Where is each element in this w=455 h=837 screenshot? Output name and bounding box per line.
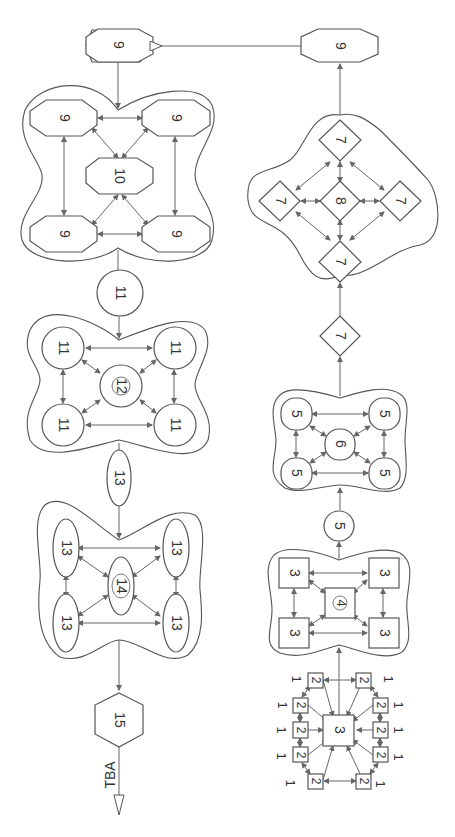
output-arrow-icon	[114, 795, 124, 815]
node-11: 11	[154, 404, 196, 446]
svg-text:13: 13	[59, 540, 75, 556]
input-1: 1	[289, 675, 304, 682]
node-9: 9	[30, 100, 97, 136]
svg-text:2: 2	[374, 702, 388, 709]
node-3-input-center: 3	[323, 715, 354, 746]
node-5: 5	[369, 398, 400, 430]
svg-text:5: 5	[332, 522, 348, 530]
node-2: 2	[293, 722, 308, 738]
node-3: 3	[279, 558, 309, 588]
node-12-center: 12	[100, 365, 142, 407]
node-9-right-top: 9	[301, 29, 378, 62]
input-1: 1	[275, 701, 290, 708]
node-7: 7	[380, 181, 421, 221]
svg-text:9: 9	[333, 42, 349, 50]
node-2: 2	[356, 774, 371, 789]
node-4-center: 4	[325, 588, 355, 618]
svg-text:2: 2	[294, 752, 308, 759]
svg-text:7: 7	[393, 197, 409, 205]
input-1: 1	[274, 726, 289, 733]
svg-text:5: 5	[377, 410, 393, 418]
input-1: 1	[391, 726, 406, 733]
svg-text:14: 14	[114, 578, 130, 594]
svg-text:3: 3	[287, 629, 303, 637]
node-13: 13	[53, 594, 79, 652]
node-13-link: 13	[107, 450, 131, 506]
svg-text:2: 2	[309, 677, 323, 684]
svg-text:2: 2	[374, 727, 388, 734]
svg-text:7: 7	[333, 258, 349, 266]
cluster-5-6: 5 5 5 5 6	[281, 398, 400, 489]
cluster-9-10: 9 9 9 9 10	[30, 100, 210, 252]
node-9-left-top: 9	[86, 29, 153, 62]
node-5: 5	[281, 458, 312, 489]
node-10-center: 10	[86, 158, 153, 194]
node-2: 2	[293, 698, 308, 713]
svg-text:3: 3	[287, 569, 303, 577]
node-5-link: 5	[324, 511, 354, 541]
input-cluster: 3 2 2 2 2 2 2 2 2 2 2 1 1 1 1 1 1 1 1 1 …	[274, 673, 406, 789]
node-5: 5	[369, 458, 400, 489]
node-2: 2	[373, 698, 388, 713]
node-11: 11	[42, 327, 84, 369]
svg-text:3: 3	[332, 726, 348, 734]
svg-text:15: 15	[112, 712, 128, 728]
node-9: 9	[30, 216, 97, 252]
node-5: 5	[281, 398, 312, 430]
svg-text:6: 6	[333, 440, 349, 448]
node-2: 2	[308, 673, 323, 688]
svg-text:12: 12	[114, 378, 130, 394]
node-11: 11	[154, 327, 196, 369]
svg-text:3: 3	[377, 629, 393, 637]
cluster-3-4: 3 3 3 3 4	[279, 558, 399, 648]
diagram-canvas: 9 9 9 9 9 10	[0, 0, 455, 837]
cluster-7-8: 7 7 7 7 8	[259, 120, 421, 282]
input-1: 1	[274, 752, 289, 759]
node-2: 2	[308, 774, 323, 789]
svg-text:2: 2	[294, 702, 308, 709]
svg-text:2: 2	[357, 677, 371, 684]
svg-text:11: 11	[113, 286, 129, 301]
node-6-center: 6	[325, 429, 355, 460]
svg-text:9: 9	[57, 114, 73, 122]
input-1: 1	[373, 780, 388, 787]
node-3: 3	[369, 558, 399, 588]
svg-text:2: 2	[294, 727, 308, 734]
svg-text:7: 7	[273, 197, 289, 205]
node-13: 13	[163, 594, 189, 652]
flow-diagram: 9 9 9 9 9 10	[0, 0, 455, 837]
node-7: 7	[319, 241, 361, 282]
svg-text:13: 13	[169, 540, 185, 556]
svg-text:5: 5	[289, 469, 305, 477]
node-11-link: 11	[97, 270, 143, 316]
svg-text:2: 2	[309, 778, 323, 785]
node-2: 2	[373, 722, 388, 738]
svg-text:2: 2	[357, 778, 371, 785]
svg-text:8: 8	[333, 197, 349, 205]
node-2: 2	[373, 747, 388, 762]
cluster-11-12: 11 11 11 11 12	[42, 327, 196, 446]
output-label: TBA	[102, 761, 118, 789]
svg-text:10: 10	[112, 168, 128, 184]
svg-text:4: 4	[334, 599, 349, 606]
svg-text:11: 11	[168, 341, 184, 356]
input-1: 1	[391, 701, 406, 708]
svg-text:7: 7	[333, 136, 349, 144]
svg-text:9: 9	[57, 230, 73, 238]
node-13: 13	[163, 519, 189, 577]
node-2: 2	[293, 747, 308, 762]
node-8-center: 8	[320, 181, 360, 221]
node-15-final: 15	[95, 693, 143, 747]
node-7: 7	[319, 120, 361, 161]
input-1: 1	[391, 753, 406, 760]
svg-text:2: 2	[374, 752, 388, 759]
node-13: 13	[53, 519, 79, 577]
svg-text:3: 3	[377, 569, 393, 577]
svg-text:5: 5	[289, 410, 305, 418]
node-9: 9	[142, 100, 210, 136]
svg-text:11: 11	[56, 418, 72, 433]
node-7: 7	[259, 181, 300, 221]
svg-text:13: 13	[59, 615, 75, 631]
svg-text:7: 7	[333, 332, 349, 340]
input-1: 1	[283, 779, 298, 786]
